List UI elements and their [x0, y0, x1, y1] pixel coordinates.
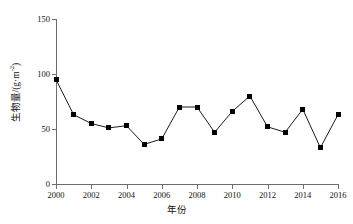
data-point-2009 — [212, 130, 217, 135]
data-point-2007 — [177, 105, 182, 110]
data-point-2011 — [247, 94, 252, 99]
x-tick-mark — [162, 185, 163, 189]
y-tick-label: 150 — [4, 15, 50, 24]
y-axis-title: 生物量/(g·m-2) — [7, 43, 20, 143]
x-tick-label: 2010 — [212, 191, 252, 200]
x-tick-mark — [91, 185, 92, 189]
x-tick-label: 2012 — [248, 191, 288, 200]
series-polyline — [56, 19, 338, 184]
data-point-2002 — [89, 121, 94, 126]
biomass-line-chart: 050100150 200020022004200620082010201220… — [0, 0, 353, 224]
x-tick-mark — [197, 185, 198, 189]
data-point-2010 — [230, 109, 235, 114]
x-tick-mark — [338, 185, 339, 189]
data-point-2001 — [71, 112, 76, 117]
y-axis-title-main: 生物量/(g·m — [11, 71, 21, 122]
y-axis-title-tail: ) — [11, 63, 21, 66]
data-point-2013 — [283, 130, 288, 135]
data-point-2012 — [265, 124, 270, 129]
x-tick-label: 2004 — [107, 191, 147, 200]
data-point-2015 — [318, 145, 323, 150]
data-point-2005 — [142, 142, 147, 147]
y-tick-label: 0 — [4, 180, 50, 189]
x-tick-label: 2014 — [283, 191, 323, 200]
x-tick-mark — [303, 185, 304, 189]
plot-area — [56, 19, 338, 184]
data-point-2003 — [106, 125, 111, 130]
x-axis-title: 年份 — [0, 205, 353, 215]
data-point-2016 — [336, 112, 341, 117]
x-tick-label: 2016 — [318, 191, 353, 200]
data-point-2008 — [195, 105, 200, 110]
data-point-2000 — [54, 77, 59, 82]
x-tick-label: 2006 — [142, 191, 182, 200]
y-axis-title-exponent: -2 — [8, 66, 15, 71]
x-tick-label: 2008 — [177, 191, 217, 200]
data-point-2004 — [124, 123, 129, 128]
x-tick-mark — [56, 185, 57, 189]
x-tick-mark — [127, 185, 128, 189]
x-tick-label: 2000 — [36, 191, 76, 200]
data-point-2006 — [159, 136, 164, 141]
x-tick-mark — [232, 185, 233, 189]
x-tick-mark — [268, 185, 269, 189]
x-tick-label: 2002 — [71, 191, 111, 200]
data-point-2014 — [300, 107, 305, 112]
